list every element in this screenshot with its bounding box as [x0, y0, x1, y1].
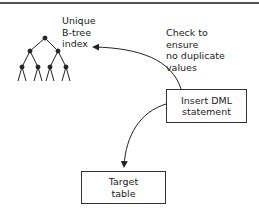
insert-dml-box: Insert DML statement [166, 89, 247, 123]
arrow-to-target [124, 104, 166, 166]
index-label-line3: index [62, 38, 96, 50]
check-label-line3: no duplicate [166, 50, 225, 62]
index-label-line1: Unique [62, 15, 96, 27]
check-label-line2: ensure [166, 39, 225, 51]
diagram-canvas: UniqueB-treeindex Check toensureno dupli… [0, 0, 259, 212]
insert-box-line1: Insert DML [181, 95, 232, 107]
insert-box-line2: statement [182, 106, 231, 118]
check-label-line4: values [166, 62, 225, 74]
index-label: UniqueB-treeindex [62, 15, 96, 50]
check-label: Check toensureno duplicatevalues [166, 27, 225, 73]
target-box-line1: Target [109, 176, 138, 188]
check-label-line1: Check to [166, 27, 225, 39]
index-label-line2: B-tree [62, 27, 96, 39]
target-table-box: Target table [81, 171, 166, 204]
target-box-line2: table [111, 188, 135, 200]
